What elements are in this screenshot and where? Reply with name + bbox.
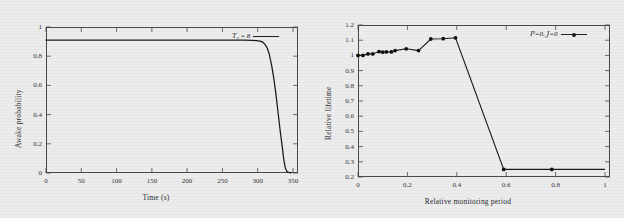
x-tick-label: 300	[246, 178, 270, 185]
x-tick-label: 150	[140, 178, 164, 185]
y-tick-label: 1.1	[328, 37, 354, 44]
y-tick-label: 0.8	[18, 53, 42, 60]
legend-left: Ts = 8	[232, 32, 279, 40]
y-axis-title-right: Relative lifetime	[324, 86, 333, 140]
y-axis-title-left: Awake probability	[14, 89, 23, 148]
x-tick-label: 0	[346, 182, 370, 189]
x-axis-title-left: Time (s)	[0, 193, 312, 202]
x-tick-label: 0.2	[395, 182, 419, 189]
x-tick-label: 50	[69, 178, 93, 185]
y-tick-label: 0.3	[328, 159, 354, 166]
x-tick-label: 100	[105, 178, 129, 185]
plot-frame-left	[46, 27, 298, 173]
legend-label-right: P=0, J=0	[530, 30, 558, 38]
panel-awake-probability: 0 0.2 0.4 0.6 0.8 1 0 50 100 150 200 250…	[0, 0, 312, 218]
y-tick-label: 0.9	[328, 68, 354, 75]
x-tick-label: 350	[281, 178, 305, 185]
panel-relative-lifetime: 0.2 0.3 0.4 0.5 0.6 0.7 0.8 0.9 1 1.1 1.…	[312, 0, 624, 218]
x-axis-title-right: Relative monitoring period	[312, 197, 624, 206]
legend-line-marker-swatch	[561, 34, 587, 35]
legend-line-swatch	[253, 36, 279, 37]
plot-frame-right	[358, 25, 610, 177]
x-tick-label: 1	[593, 182, 617, 189]
y-tick-label: 0.2	[328, 174, 354, 181]
y-tick-label: 0.4	[328, 144, 354, 151]
figure-two-panel: 0 0.2 0.4 0.6 0.8 1 0 50 100 150 200 250…	[0, 0, 624, 218]
y-tick-label: 1	[18, 24, 42, 31]
y-tick-label: 1.2	[328, 22, 354, 29]
x-tick-label: 0.4	[445, 182, 469, 189]
legend-label-left: Ts = 8	[232, 32, 250, 40]
y-tick-label: 0	[18, 170, 42, 177]
x-tick-label: 0.6	[494, 182, 518, 189]
y-tick-label: 1	[328, 52, 354, 59]
x-tick-label: 200	[175, 178, 199, 185]
legend-right: P=0, J=0	[530, 30, 587, 38]
x-tick-label: 0	[34, 178, 58, 185]
x-tick-label: 0.8	[544, 182, 568, 189]
x-tick-label: 250	[210, 178, 234, 185]
